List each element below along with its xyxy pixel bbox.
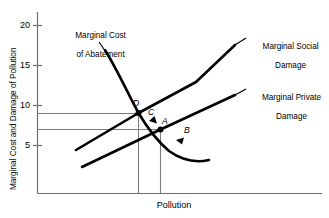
economics-chart-figure: 20 15 10 5 Marginal Cost and Damage of P… bbox=[0, 0, 329, 218]
curve-label-private-line1: Marginal Private bbox=[262, 93, 321, 102]
curve-label-marginal-social-damage: Marginal Social Damage bbox=[246, 33, 326, 79]
curve-label-marginal-private-damage: Marginal Private Damage bbox=[246, 84, 328, 130]
curve-label-marginal-cost-of-abatement: Marginal Cost of Abatement bbox=[48, 22, 144, 68]
point-label-b: B bbox=[184, 126, 190, 136]
curve-label-abatement-line1: Marginal Cost bbox=[75, 31, 126, 40]
leader-private-damage bbox=[235, 89, 246, 95]
point-marker-d bbox=[136, 110, 142, 116]
curve-label-private-line2: Damage bbox=[276, 112, 307, 121]
y-axis-title: Marginal Cost and Damage of Pollution bbox=[9, 48, 18, 190]
leader-social-damage bbox=[235, 38, 246, 45]
x-axis-title: Pollution bbox=[114, 200, 234, 210]
arrow-b bbox=[176, 138, 184, 145]
curve-label-social-line2: Damage bbox=[275, 61, 306, 70]
point-label-c: C bbox=[148, 108, 154, 118]
y-tick-label-20: 20 bbox=[8, 20, 30, 30]
curve-label-abatement-line2: of Abatement bbox=[76, 50, 124, 59]
point-label-d: D bbox=[133, 99, 139, 109]
curve-label-social-line1: Marginal Social bbox=[263, 42, 319, 51]
point-label-a: A bbox=[162, 117, 168, 127]
point-marker-a bbox=[158, 127, 164, 133]
